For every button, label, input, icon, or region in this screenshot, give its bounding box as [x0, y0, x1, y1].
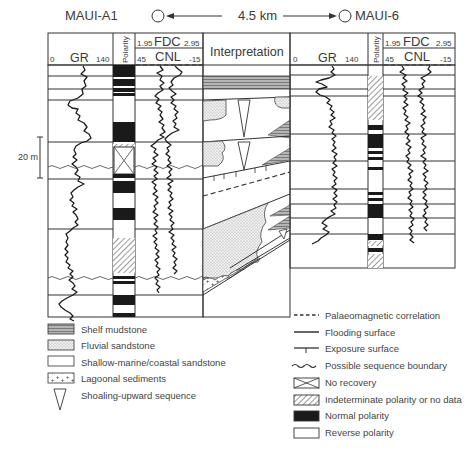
legend-left: Shelf mudstone Fluvial sandstone Shallow… [48, 324, 226, 410]
right-cnl-curve [418, 66, 431, 231]
arrowhead-right-icon [329, 13, 337, 19]
shelf-mudstone-swatch-icon [48, 324, 74, 334]
shelf-mudstone-band [203, 76, 290, 89]
right-fdc-min: 1.95 [385, 39, 401, 48]
right-fdc-label: FDC [403, 34, 430, 49]
right-fdc-max: 2.95 [436, 39, 452, 48]
svg-text:Shoaling-upward sequence: Shoaling-upward sequence [81, 390, 196, 401]
right-gr-label: GR [318, 51, 337, 65]
left-cnl-curve [165, 66, 182, 274]
left-cnl-label: CNL [155, 49, 181, 64]
scale-bar-label: 20 m [18, 152, 38, 162]
legend-item: Shallow-marine/coastal sandstone [48, 356, 226, 368]
left-polarity-column [113, 65, 135, 317]
well-marker-right-icon [339, 10, 351, 22]
svg-text:Flooding surface: Flooding surface [325, 327, 395, 338]
well-name-right: MAUI-6 [355, 8, 399, 23]
legend-item: Fluvial sandstone [48, 340, 155, 351]
right-gr-curve [312, 66, 337, 244]
left-gr-min: 0 [50, 55, 55, 64]
well-name-left: MAUI-A1 [65, 8, 118, 23]
interpretation-label: Interpretation [210, 45, 284, 59]
legend-right: Palaeomagnetic correlation Flooding surf… [292, 310, 462, 438]
right-cnl-max: -15 [440, 55, 452, 64]
fluvial-sandstone-swatch-icon [48, 340, 74, 350]
svg-text:Exposure surface: Exposure surface [325, 343, 399, 354]
right-well-log: 0 GR 140 Polarity 1.95 FDC 2.95 45 CNL -… [290, 33, 455, 268]
left-well-log: 0 GR 140 Polarity 1.95 FDC 2.95 45 CNL -… [48, 33, 203, 321]
well-marker-left-icon [152, 10, 164, 22]
legend-item: Shoaling-upward sequence [54, 389, 196, 410]
legend-item: Palaeomagnetic correlation [294, 310, 440, 321]
lagoonal-sediments-swatch-icon [48, 373, 74, 383]
left-fdc-max: 2.95 [184, 39, 200, 48]
shallow-marine-swatch-icon [48, 356, 74, 366]
wavy-line-icon [292, 365, 316, 368]
shoaling-upward-triangle-icon [238, 142, 250, 170]
left-fdc-label: FDC [154, 34, 181, 49]
title-row: MAUI-A1 4.5 km MAUI-6 [65, 8, 399, 23]
legend-item: Flooding surface [294, 327, 395, 338]
shoaling-upward-triangle-icon [238, 100, 250, 137]
legend-item: No recovery [294, 377, 376, 388]
left-polarity-label: Polarity [121, 36, 130, 63]
scale-bar: 20 m [18, 137, 43, 178]
left-cnl-min: 45 [137, 55, 146, 64]
hatched-box-icon [294, 395, 319, 405]
right-fdc-curve [400, 66, 414, 243]
distance-label: 4.5 km [238, 8, 277, 23]
svg-text:Possible sequence boundary: Possible sequence boundary [325, 360, 447, 371]
left-fdc-min: 1.95 [137, 39, 153, 48]
right-polarity-label: Polarity [372, 36, 381, 63]
legend-item: Reverse polarity [294, 427, 394, 438]
svg-text:Fluvial sandstone: Fluvial sandstone [81, 340, 155, 351]
no-recovery-box [114, 147, 134, 174]
left-gr-max: 140 [96, 55, 110, 64]
svg-text:No recovery: No recovery [325, 377, 376, 388]
svg-text:Palaeomagnetic correlation: Palaeomagnetic correlation [325, 310, 440, 321]
left-gr-label: GR [70, 51, 89, 65]
svg-text:Normal polarity: Normal polarity [325, 410, 389, 421]
svg-text:Indeterminate polarity or no d: Indeterminate polarity or no data [325, 394, 462, 405]
right-gr-min: 0 [293, 55, 298, 64]
shoaling-upward-triangle-icon [54, 389, 66, 410]
interpretation-panel: Interpretation [203, 33, 290, 317]
legend-item: Lagoonal sediments [48, 373, 166, 384]
right-gr-max: 140 [345, 55, 359, 64]
well-correlation-diagram: + + MAUI-A1 4.5 km MAUI-6 0 GR 140 Polar… [0, 0, 469, 450]
svg-text:Shelf mudstone: Shelf mudstone [81, 324, 147, 335]
svg-text:Shallow-marine/coastal sandsto: Shallow-marine/coastal sandstone [81, 357, 226, 368]
right-cnl-min: 45 [385, 55, 394, 64]
shoaling-upward-triangle-icon [279, 229, 287, 239]
black-box-icon [294, 411, 319, 421]
white-box-icon [294, 428, 319, 438]
svg-text:Reverse polarity: Reverse polarity [325, 427, 394, 438]
arrowhead-left-icon [166, 13, 174, 19]
right-polarity-column [368, 76, 383, 268]
legend-item: Shelf mudstone [48, 324, 147, 335]
left-cnl-max: -15 [189, 55, 201, 64]
right-cnl-label: CNL [404, 49, 430, 64]
legend-item: Normal polarity [294, 410, 389, 421]
legend-item: Possible sequence boundary [292, 360, 447, 371]
svg-text:Lagoonal sediments: Lagoonal sediments [81, 373, 166, 384]
legend-item: Exposure surface [294, 343, 399, 354]
legend-item: Indeterminate polarity or no data [294, 394, 462, 405]
left-gr-curve [59, 66, 91, 321]
